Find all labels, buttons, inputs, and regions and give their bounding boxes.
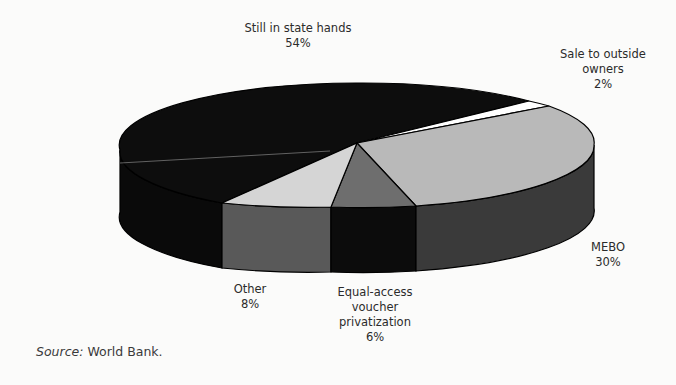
label-voucher-line1: Equal-access	[325, 285, 425, 300]
source-text: World Bank.	[87, 344, 162, 359]
label-other: Other 8%	[225, 282, 275, 312]
slice-side-voucher	[331, 206, 416, 273]
label-voucher-value: 6%	[325, 330, 425, 345]
label-sale-value: 2%	[548, 77, 658, 92]
source-prefix: Source:	[36, 344, 83, 359]
label-state: Still in state hands 54%	[228, 21, 368, 51]
label-sale-line2: owners	[548, 62, 658, 77]
label-sale-line1: Sale to outside	[548, 47, 658, 62]
source-note: Source: World Bank.	[36, 344, 163, 359]
label-voucher-line2: voucher	[325, 300, 425, 315]
label-voucher-line3: privatization	[325, 315, 425, 330]
slice-side-other	[222, 203, 331, 272]
label-state-name: Still in state hands	[228, 21, 368, 36]
label-other-value: 8%	[225, 297, 275, 312]
label-other-name: Other	[225, 282, 275, 297]
label-voucher: Equal-access voucher privatization 6%	[325, 285, 425, 345]
label-state-value: 54%	[228, 36, 368, 51]
label-sale: Sale to outside owners 2%	[548, 47, 658, 92]
label-mebo-name: MEBO	[578, 240, 638, 255]
label-mebo: MEBO 30%	[578, 240, 638, 270]
label-mebo-value: 30%	[578, 255, 638, 270]
